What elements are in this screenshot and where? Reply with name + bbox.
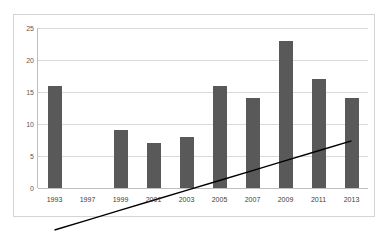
x-axis-label-2011: 2011 xyxy=(302,192,335,208)
y-axis-tick-label: 15 xyxy=(26,89,34,96)
bar-2011[interactable] xyxy=(312,79,326,188)
bar-2003[interactable] xyxy=(180,137,194,188)
bar-1999[interactable] xyxy=(114,130,128,188)
bar-slot-1993 xyxy=(38,28,71,188)
chart-figure: 0510152025 19931997199920012003200520072… xyxy=(13,14,375,217)
x-axis-labels: 1993199719992001200320052007200920112013 xyxy=(38,192,368,208)
gridline-0: 0 xyxy=(38,188,368,189)
plot-area: 0510152025 xyxy=(38,28,368,188)
y-axis-tick-label: 10 xyxy=(26,121,34,128)
bar-slot-1999 xyxy=(104,28,137,188)
y-axis-tick-label: 5 xyxy=(30,153,34,160)
bar-slot-2007 xyxy=(236,28,269,188)
bar-2001[interactable] xyxy=(147,143,161,188)
x-axis-label-2005: 2005 xyxy=(203,192,236,208)
bar-slot-2005 xyxy=(203,28,236,188)
bar-slot-2003 xyxy=(170,28,203,188)
bar-1993[interactable] xyxy=(48,86,62,188)
x-axis-label-2003: 2003 xyxy=(170,192,203,208)
bars-layer xyxy=(38,28,368,188)
bar-2013[interactable] xyxy=(345,98,359,188)
bar-slot-2013 xyxy=(335,28,368,188)
bar-2007[interactable] xyxy=(246,98,260,188)
y-axis-tick-label: 20 xyxy=(26,57,34,64)
bar-slot-1997 xyxy=(71,28,104,188)
x-axis-label-1999: 1999 xyxy=(104,192,137,208)
y-axis-tick-label: 0 xyxy=(30,185,34,192)
bar-slot-2011 xyxy=(302,28,335,188)
x-axis-label-1993: 1993 xyxy=(38,192,71,208)
bar-2005[interactable] xyxy=(213,86,227,188)
x-axis-label-2013: 2013 xyxy=(335,192,368,208)
y-axis-tick-label: 25 xyxy=(26,25,34,32)
x-axis-label-2001: 2001 xyxy=(137,192,170,208)
bar-slot-2001 xyxy=(137,28,170,188)
bar-2009[interactable] xyxy=(279,41,293,188)
x-axis-label-1997: 1997 xyxy=(71,192,104,208)
x-axis-label-2009: 2009 xyxy=(269,192,302,208)
bar-slot-2009 xyxy=(269,28,302,188)
x-axis-label-2007: 2007 xyxy=(236,192,269,208)
